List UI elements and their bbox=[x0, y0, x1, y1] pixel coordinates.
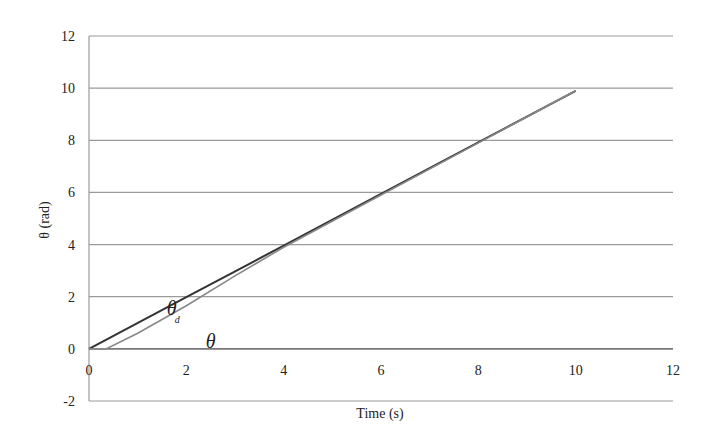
y-tick-label: 0 bbox=[68, 342, 75, 357]
chart: -2024681012 024681012 θdθ θ (rad) Time (… bbox=[0, 0, 713, 445]
y-tick-label: 10 bbox=[61, 81, 75, 96]
y-tick-label: 4 bbox=[68, 238, 75, 253]
y-tick-labels: -2024681012 bbox=[61, 29, 75, 409]
y-tick-label: 8 bbox=[68, 133, 75, 148]
data-series bbox=[89, 91, 576, 349]
y-axis-title: θ (rad) bbox=[37, 201, 53, 239]
gridlines bbox=[89, 36, 673, 401]
annotation-theta: θ bbox=[206, 330, 216, 352]
axes bbox=[89, 36, 673, 401]
x-tick-label: 6 bbox=[378, 363, 385, 378]
y-tick-label: -2 bbox=[63, 394, 75, 409]
x-tick-label: 10 bbox=[569, 363, 583, 378]
y-tick-label: 6 bbox=[68, 185, 75, 200]
x-tick-label: 4 bbox=[280, 363, 287, 378]
annotations: θdθ bbox=[167, 297, 216, 352]
y-tick-label: 12 bbox=[61, 29, 75, 44]
y-tick-label: 2 bbox=[68, 290, 75, 305]
x-tick-labels: 024681012 bbox=[86, 363, 681, 378]
x-tick-label: 12 bbox=[666, 363, 680, 378]
x-tick-label: 2 bbox=[183, 363, 190, 378]
x-axis-title: Time (s) bbox=[356, 406, 404, 422]
x-tick-label: 8 bbox=[475, 363, 482, 378]
x-tick-label: 0 bbox=[86, 363, 93, 378]
